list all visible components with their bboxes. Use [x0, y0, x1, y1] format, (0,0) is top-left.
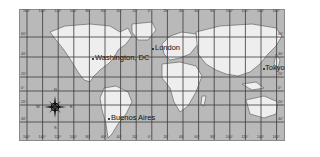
- tick-label: 80°: [210, 136, 215, 140]
- compass-north-label: N: [54, 88, 57, 92]
- tick-label: 20°: [21, 73, 26, 77]
- tick-label: 120°: [241, 136, 248, 140]
- tick-label: 140°: [39, 136, 46, 140]
- tick-label: 20°: [163, 136, 168, 140]
- tick-label: 20°: [278, 101, 283, 105]
- tick-label: 20°: [278, 73, 283, 77]
- tick-label: 40°: [179, 136, 184, 140]
- tick-label: 160°: [23, 136, 30, 140]
- tick-label: 140°: [257, 136, 264, 140]
- tick-label: 20°: [21, 101, 26, 105]
- tick-label: 20°: [132, 10, 137, 14]
- tick-label: 20°: [132, 136, 137, 140]
- tick-label: 0°: [278, 87, 281, 91]
- tick-label: 60°: [195, 136, 200, 140]
- tick-label: 40°: [117, 136, 122, 140]
- compass-east-label: E: [70, 105, 73, 109]
- tick-label: 60°: [278, 33, 283, 37]
- tick-label: 60°: [101, 136, 106, 140]
- tick-label: 100°: [226, 10, 233, 14]
- tick-label: 120°: [54, 136, 61, 140]
- city-label-washington-dc: Washington, DC: [95, 54, 149, 62]
- land-masses: [50, 22, 282, 138]
- tick-label: 0°: [21, 87, 24, 91]
- tick-label: 60°: [101, 10, 106, 14]
- city-label-buenos-aires: Buenos Aires: [111, 114, 155, 122]
- tick-label: 100°: [70, 136, 77, 140]
- city-label-london: London: [155, 44, 180, 52]
- tick-label: 120°: [241, 10, 248, 14]
- tick-label: 0°: [148, 10, 151, 14]
- tick-label: 20°: [163, 10, 168, 14]
- compass-south-label: S: [54, 126, 57, 130]
- tick-label: 80°: [85, 10, 90, 14]
- tick-label: 120°: [54, 10, 61, 14]
- tick-label: 160°: [273, 10, 280, 14]
- washington-dc-marker: [92, 58, 94, 60]
- tick-label: 140°: [257, 10, 264, 14]
- tick-label: 140°: [39, 10, 46, 14]
- buenos-aires-marker: [108, 118, 110, 120]
- tick-label: 60°: [195, 10, 200, 14]
- tick-label: 160°: [273, 136, 280, 140]
- tick-label: 40°: [278, 118, 283, 122]
- tick-label: 40°: [21, 118, 26, 122]
- tick-label: 40°: [117, 10, 122, 14]
- tick-label: 80°: [85, 136, 90, 140]
- tick-label: 100°: [70, 10, 77, 14]
- tick-label: 60°: [21, 33, 26, 37]
- tick-label: 160°: [23, 10, 30, 14]
- london-marker: [152, 48, 154, 50]
- tick-label: 0°: [148, 136, 151, 140]
- tick-label: 40°: [179, 10, 184, 14]
- compass-west-label: W: [36, 105, 40, 109]
- tick-label: 100°: [226, 136, 233, 140]
- city-label-tokyo: Tokyo: [265, 64, 285, 72]
- compass-rose-icon: [42, 94, 68, 120]
- tick-label: 40°: [278, 53, 283, 57]
- tick-label: 40°: [21, 53, 26, 57]
- tick-label: 80°: [210, 10, 215, 14]
